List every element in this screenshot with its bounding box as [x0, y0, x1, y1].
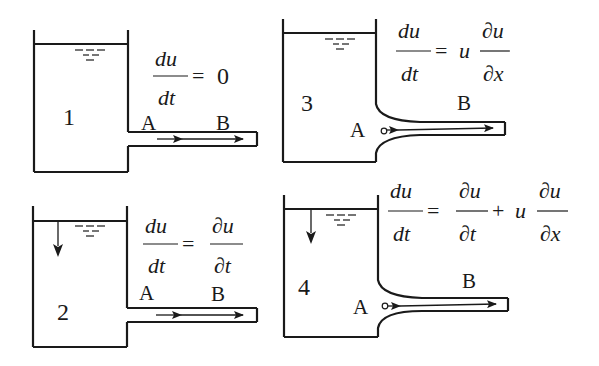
diagram-number: 3	[301, 90, 313, 116]
svg-text:u: u	[459, 38, 470, 63]
svg-text:du: du	[145, 213, 167, 238]
svg-text:du: du	[398, 18, 420, 43]
svg-text:∂u: ∂u	[212, 213, 234, 238]
falling-level-arrow-icon	[53, 221, 63, 257]
water-surface-icon	[75, 50, 105, 60]
equation: du dt = ∂u ∂t + u ∂u ∂x	[388, 178, 568, 246]
svg-text:∂x: ∂x	[540, 221, 561, 246]
streamline-arrow-icon	[382, 303, 496, 309]
tank-4	[284, 195, 508, 337]
svg-text:dt: dt	[401, 61, 419, 86]
point-a-label: A	[350, 118, 366, 142]
svg-text:=: =	[427, 198, 439, 223]
diagram-number: 1	[63, 104, 75, 130]
diagram-1	[34, 30, 257, 172]
point-b-label: B	[462, 269, 476, 293]
diagram-4	[284, 195, 508, 337]
svg-text:0: 0	[217, 63, 229, 89]
diagram-number: 2	[57, 299, 69, 325]
point-b-label: B	[216, 111, 230, 135]
svg-text:u: u	[515, 198, 526, 223]
svg-text:=: =	[192, 63, 204, 88]
svg-text:=: =	[182, 231, 194, 256]
falling-level-arrow-icon	[306, 209, 316, 244]
svg-text:∂x: ∂x	[483, 61, 504, 86]
water-surface-icon	[326, 215, 356, 225]
streamline-arrow-icon	[381, 128, 493, 134]
svg-text:∂u: ∂u	[539, 178, 561, 203]
svg-text:dt: dt	[158, 85, 176, 110]
equation: du dt = ∂u ∂t	[143, 213, 243, 278]
point-b-label: B	[211, 282, 225, 306]
point-a-label: A	[141, 111, 157, 135]
svg-text:∂u: ∂u	[482, 18, 504, 43]
equation: du dt = 0	[153, 46, 229, 110]
svg-text:+: +	[492, 198, 504, 223]
svg-text:du: du	[390, 178, 412, 203]
water-surface-icon	[325, 39, 355, 49]
svg-text:∂u: ∂u	[459, 178, 481, 203]
point-a-label: A	[353, 295, 369, 319]
svg-text:=: =	[435, 38, 447, 63]
svg-text:∂t: ∂t	[459, 221, 477, 246]
svg-text:dt: dt	[393, 221, 411, 246]
diagram-3	[283, 19, 505, 162]
svg-text:du: du	[155, 46, 177, 71]
water-surface-icon	[75, 226, 105, 236]
point-b-label: B	[457, 91, 471, 115]
point-a-label: A	[139, 281, 155, 305]
equation: du dt = u ∂u ∂x	[396, 18, 510, 86]
svg-text:dt: dt	[148, 253, 166, 278]
tank-1	[34, 30, 257, 172]
svg-text:∂t: ∂t	[214, 253, 232, 278]
tank-3	[283, 19, 505, 162]
flow-diagrams: 1 A B du dt = 0	[0, 0, 599, 366]
diagram-number: 4	[298, 274, 310, 300]
